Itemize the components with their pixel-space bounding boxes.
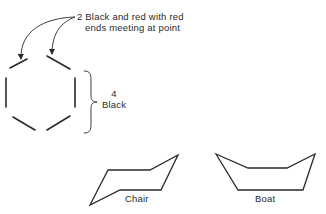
- black-bonds-count: 4: [100, 88, 128, 99]
- brace: [84, 71, 97, 133]
- red-bonds-line2: ends meeting at point: [77, 22, 184, 33]
- bond-bottom-right: [47, 116, 70, 130]
- pointer-arrows: [21, 17, 75, 59]
- hexagon-bonds: [6, 56, 75, 130]
- arrow-to-top-left-bond: [21, 17, 75, 59]
- red-bonds-line1: Black and red with red: [85, 11, 183, 22]
- red-bonds-annotation: 2 Black and red with red ends meeting at…: [77, 11, 184, 33]
- black-bonds-annotation: 4 Black: [100, 88, 128, 110]
- arrow-to-top-right-bond: [52, 17, 75, 54]
- chair-label: Chair: [125, 193, 149, 204]
- black-bonds-label: Black: [100, 99, 128, 110]
- bond-top-right: [47, 56, 70, 69]
- bond-bottom-left: [13, 117, 35, 130]
- boat-label: Boat: [255, 193, 275, 204]
- bond-top-left: [10, 59, 27, 68]
- red-bonds-count: 2: [77, 11, 82, 22]
- boat-conformation: [216, 154, 315, 190]
